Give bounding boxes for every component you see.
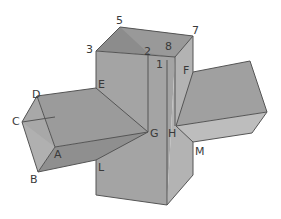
label-1: 1 [156,58,163,71]
label-B: B [30,173,38,186]
label-E: E [98,78,105,91]
label-C: C [12,115,20,128]
label-H: H [168,127,176,140]
label-L: L [98,161,105,174]
label-D: D [32,88,40,101]
label-A: A [54,148,62,161]
label-2: 2 [144,45,151,58]
label-3: 3 [86,43,93,56]
label-5: 5 [116,14,123,27]
label-8: 8 [165,40,172,53]
label-7: 7 [192,24,199,37]
label-F: F [183,64,189,77]
label-M: M [195,145,205,158]
label-G: G [150,127,159,140]
prism-cross-diagram: 5 3 7 8 2 1 F E D C A B G H L M [0,0,281,219]
